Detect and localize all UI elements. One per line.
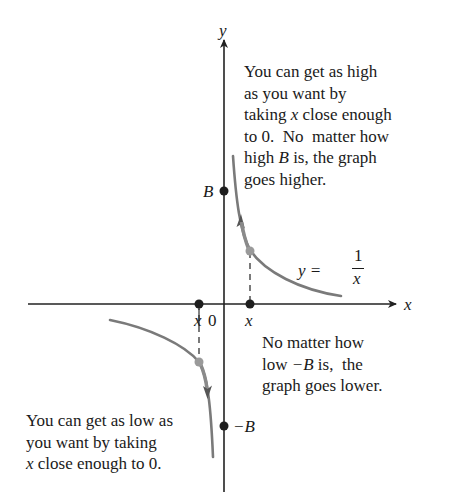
text-x-var: x [291, 105, 299, 124]
annotation-low-line-3: x close enough to 0. [26, 453, 173, 475]
dot-x-positive [246, 300, 255, 309]
annotation-lower-line-3: graph goes lower. [262, 375, 382, 397]
annotation-low: You can get as low as you want by taking… [26, 410, 173, 475]
text-taking: taking [244, 105, 287, 124]
annotation-high-line-5: high B is, the graph [244, 147, 392, 169]
equation-numerator: 1 [354, 246, 363, 266]
equation-denominator: x [353, 269, 361, 289]
annotation-high: You can get as high as you want by takin… [244, 61, 392, 190]
equation-label: y = 1 x [298, 248, 368, 294]
dot-B [220, 187, 229, 196]
text-is-the: is, the [314, 355, 363, 374]
arrow-down-shaft [200, 363, 207, 389]
text-low: low [262, 355, 292, 374]
text-high: high [244, 148, 274, 167]
point-label-neg-B: −B [233, 418, 255, 435]
point-label-B: B [203, 183, 213, 200]
annotation-lower-line-1: No matter how [262, 332, 382, 354]
text-close-enough-to-0: close enough to 0. [34, 454, 162, 473]
annotation-low-line-2: you want by taking [26, 432, 173, 454]
text-x-var-2: x [26, 454, 34, 473]
text-neg-B-var: −B [292, 355, 314, 374]
annotation-lower: No matter how low −B is, the graph goes … [262, 332, 382, 397]
y-axis-label: y [219, 22, 227, 39]
dot-x-negative [195, 300, 204, 309]
curve-point-negative [195, 358, 204, 367]
text-is-the-graph: is, the graph [293, 148, 377, 167]
text-B-var: B [278, 148, 288, 167]
annotation-high-line-6: goes higher. [244, 169, 392, 191]
point-label-x-negative: x [194, 312, 202, 329]
annotation-high-line-1: You can get as high [244, 61, 392, 83]
x-axis-label: x [404, 296, 412, 313]
origin-label: 0 [208, 312, 217, 329]
annotation-high-line-3: taking x close enough [244, 104, 392, 126]
equation-lhs: y = [298, 261, 321, 281]
text-close-enough: close enough [303, 105, 392, 124]
point-label-x-positive: x [245, 312, 253, 329]
annotation-high-line-2: as you want by [244, 83, 392, 105]
arrow-up-shaft [242, 222, 250, 250]
curve-point-positive [246, 247, 255, 256]
annotation-high-line-4: to 0. No matter how [244, 126, 392, 148]
annotation-lower-line-2: low −B is, the [262, 354, 382, 376]
annotation-low-line-1: You can get as low as [26, 410, 173, 432]
dot-neg-B [220, 422, 229, 431]
